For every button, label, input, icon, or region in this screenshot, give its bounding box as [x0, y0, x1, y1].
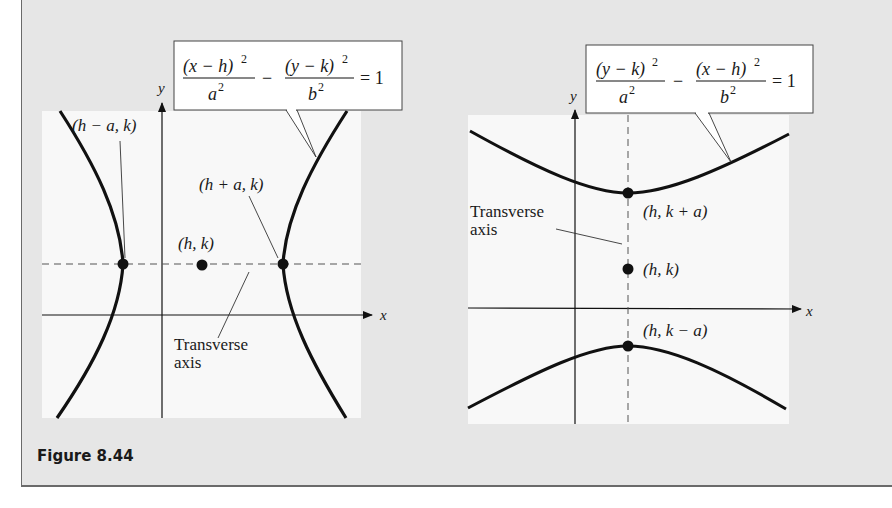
- right-graph: x y (h, k + a) (h, k) (h, k − a) Transve…: [468, 45, 813, 424]
- right-transverse-label-line1: Transverse: [470, 202, 544, 221]
- svg-text:(x − h): (x − h): [696, 59, 746, 80]
- right-y-axis-label: y: [568, 88, 577, 104]
- svg-text:b: b: [720, 87, 729, 107]
- left-vertex-right-point: [278, 259, 289, 270]
- svg-text:−: −: [673, 71, 683, 91]
- right-vertex-top-label: (h, k + a): [643, 202, 708, 221]
- left-center-point: [197, 260, 208, 271]
- right-vertex-bottom-point: [623, 341, 634, 352]
- svg-text:2: 2: [629, 83, 635, 97]
- svg-text:(x − h): (x − h): [183, 56, 233, 77]
- svg-text:a: a: [619, 87, 628, 107]
- svg-text:−: −: [262, 68, 272, 88]
- svg-text:2: 2: [730, 83, 736, 97]
- svg-text:2: 2: [318, 80, 324, 94]
- figure-caption: Figure 8.44: [37, 447, 134, 465]
- left-y-axis-label: y: [156, 80, 165, 96]
- svg-text:2: 2: [218, 80, 224, 94]
- svg-text:a: a: [208, 84, 217, 104]
- svg-text:2: 2: [342, 52, 348, 66]
- svg-text:b: b: [308, 84, 317, 104]
- left-transverse-label-line1: Transverse: [174, 335, 248, 354]
- svg-text:2: 2: [652, 55, 658, 69]
- left-transverse-label-line2: axis: [174, 353, 201, 372]
- svg-text:= 1: = 1: [772, 71, 796, 91]
- right-center-point: [623, 264, 634, 275]
- left-x-axis-label: x: [379, 307, 387, 323]
- left-vertex-left-label: (h − a, k): [72, 116, 137, 135]
- svg-text:2: 2: [754, 55, 760, 69]
- right-vertex-top-point: [623, 188, 634, 199]
- svg-text:= 1: = 1: [360, 68, 384, 88]
- right-transverse-label-line2: axis: [470, 220, 497, 239]
- svg-text:2: 2: [241, 52, 247, 66]
- left-vertex-right-label: (h + a, k): [199, 175, 264, 194]
- svg-text:(y − k): (y − k): [596, 59, 645, 80]
- right-x-axis-label: x: [805, 303, 813, 319]
- left-vertex-left-point: [118, 259, 129, 270]
- right-vertex-bottom-label: (h, k − a): [643, 321, 708, 340]
- svg-text:(y − k): (y − k): [285, 56, 334, 77]
- right-center-label: (h, k): [643, 260, 679, 279]
- left-center-label: (h, k): [178, 234, 214, 253]
- left-graph: x y (h − a, k) (h, k) (h + a, k) Transve…: [42, 41, 402, 418]
